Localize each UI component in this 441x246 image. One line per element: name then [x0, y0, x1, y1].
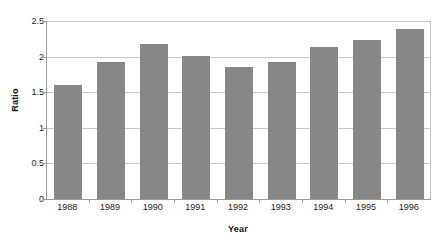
- x-axis-tick-label: 1988: [57, 203, 77, 212]
- x-axis-tick-mark: [302, 200, 303, 203]
- bar-1993: [268, 62, 296, 199]
- bar-1988: [54, 85, 82, 199]
- y-axis-title-label: Ratio: [10, 88, 20, 112]
- x-axis-tick-label: 1989: [100, 203, 120, 212]
- x-axis-tick-mark: [387, 200, 388, 203]
- bar-1994: [310, 47, 338, 199]
- x-axis-tick-label: 1993: [271, 203, 291, 212]
- y-axis-tick-mark: [43, 128, 47, 129]
- x-axis-tick-label: 1991: [185, 203, 205, 212]
- bar-1996: [396, 29, 424, 199]
- x-axis-tick-label: 1990: [143, 203, 163, 212]
- x-axis-tick-mark: [89, 200, 90, 203]
- x-axis-tick-labels: 198819891990199119921993199419951996: [46, 203, 430, 219]
- bar-1991: [182, 56, 210, 199]
- bar-chart: Ratio 00.511.522.5 198819891990199119921…: [0, 0, 441, 246]
- x-axis-tick-label: 1994: [313, 203, 333, 212]
- x-axis-tick-label: 1992: [228, 203, 248, 212]
- y-axis-tick-labels: 00.511.522.5: [22, 0, 44, 246]
- x-axis-tick-mark: [345, 200, 346, 203]
- x-axis-tick-mark: [259, 200, 260, 203]
- plot-area: [46, 21, 431, 200]
- x-axis-tick-label: 1996: [399, 203, 419, 212]
- x-axis-tick-mark: [174, 200, 175, 203]
- x-axis-tick-mark: [131, 200, 132, 203]
- y-axis-tick-mark: [43, 199, 47, 200]
- bar-1989: [97, 62, 125, 199]
- x-axis-title: Year: [46, 224, 430, 234]
- x-axis-tick-label: 1995: [356, 203, 376, 212]
- bar-1995: [353, 40, 381, 199]
- gridline: [47, 21, 431, 22]
- plot-right-border: [430, 21, 431, 199]
- y-axis-tick-mark: [43, 57, 47, 58]
- y-axis-tick-mark: [43, 92, 47, 93]
- y-axis-tick-mark: [43, 21, 47, 22]
- bar-1992: [225, 67, 253, 199]
- y-axis-tick-mark: [43, 163, 47, 164]
- bar-1990: [140, 44, 168, 199]
- x-axis-tick-mark: [217, 200, 218, 203]
